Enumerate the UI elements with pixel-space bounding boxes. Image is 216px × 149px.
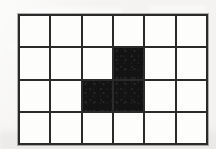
figure-canvas <box>0 0 216 149</box>
grid-cell-shaded <box>83 81 112 111</box>
grid-cell <box>51 113 80 143</box>
grid-cell <box>145 113 174 143</box>
grid-cell <box>20 16 49 46</box>
grid-cell <box>177 113 206 143</box>
paper-smudge <box>150 6 206 12</box>
grid-cell <box>177 16 206 46</box>
grid-cell <box>114 113 143 143</box>
grid-cell <box>114 16 143 46</box>
grid-cell-shaded <box>114 48 143 78</box>
grid-cell <box>83 48 112 78</box>
grid-cell <box>177 81 206 111</box>
grid-cell <box>145 16 174 46</box>
grid-cell <box>20 48 49 78</box>
grid-cell <box>145 48 174 78</box>
shaded-grid <box>18 14 208 145</box>
grid-cell <box>145 81 174 111</box>
grid-cell <box>51 81 80 111</box>
grid-cell <box>20 113 49 143</box>
grid-cell <box>83 113 112 143</box>
grid-cell <box>177 48 206 78</box>
grid-cell <box>51 16 80 46</box>
grid-cell <box>20 81 49 111</box>
grid-cell <box>83 16 112 46</box>
grid-cell-shaded <box>114 81 143 111</box>
grid-cell <box>51 48 80 78</box>
